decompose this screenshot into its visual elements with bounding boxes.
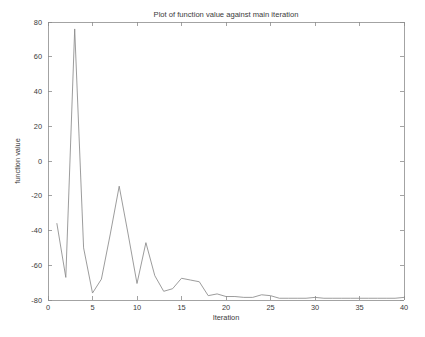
y-tick-label: 60 (34, 52, 42, 61)
chart-title: Plot of function value against main iter… (154, 10, 299, 19)
chart-plot: Plot of function value against main iter… (0, 0, 425, 337)
chart-background (0, 0, 425, 337)
x-tick-label: 0 (46, 303, 50, 312)
y-tick-label: 0 (38, 157, 42, 166)
y-tick-label: -80 (31, 296, 42, 305)
x-tick-label: 30 (311, 303, 319, 312)
x-tick-label: 10 (133, 303, 141, 312)
y-tick-label: 40 (34, 87, 42, 96)
y-axis-title: function value (13, 138, 22, 184)
figure-canvas: Plot of function value against main iter… (0, 0, 425, 337)
x-tick-label: 5 (90, 303, 94, 312)
x-tick-label: 40 (400, 303, 408, 312)
y-tick-label: -40 (31, 226, 42, 235)
x-tick-label: 35 (355, 303, 363, 312)
x-tick-label: 15 (177, 303, 185, 312)
y-tick-label: -60 (31, 261, 42, 270)
x-tick-label: 20 (222, 303, 230, 312)
x-tick-label: 25 (266, 303, 274, 312)
y-tick-label: -20 (31, 191, 42, 200)
y-tick-label: 80 (34, 18, 42, 27)
y-tick-label: 20 (34, 122, 42, 131)
x-axis-title: Iteration (213, 313, 240, 322)
